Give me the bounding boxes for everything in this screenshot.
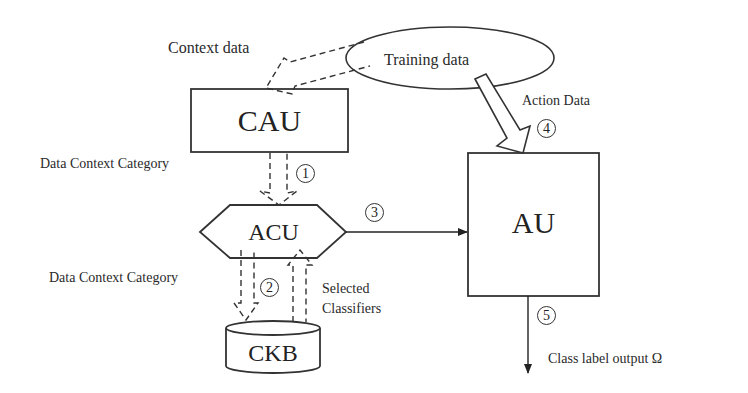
ckb-label: CKB: [226, 341, 320, 365]
training-data-label: Training data: [384, 52, 469, 68]
acu-label: ACU: [230, 220, 317, 244]
step-1-badge: 1: [296, 164, 315, 183]
diagram-canvas: [0, 0, 748, 393]
context-data-arrow: [266, 42, 370, 94]
ckb-to-acu-arrow: [288, 250, 312, 322]
class-label-output-label: Class label output Ω: [548, 352, 662, 366]
data-context-category-label-1: Data Context Category: [40, 157, 169, 171]
context-data-label: Context data: [168, 40, 249, 56]
cau-label: CAU: [191, 106, 348, 136]
step-3-badge: 3: [365, 203, 384, 222]
selected-classifiers-label-1: Selected: [322, 282, 369, 296]
au-label: AU: [468, 208, 599, 238]
cau-to-acu-arrow: [260, 153, 297, 205]
step-4-badge: 4: [537, 119, 556, 138]
action-data-label: Action Data: [522, 94, 590, 108]
acu-to-ckb-arrow: [234, 250, 258, 320]
step-2-badge: 2: [260, 278, 279, 297]
data-context-category-label-2: Data Context Category: [49, 271, 178, 285]
selected-classifiers-label-2: Classifiers: [322, 302, 381, 316]
action-data-arrow: [475, 74, 530, 153]
step-5-badge: 5: [537, 306, 556, 325]
